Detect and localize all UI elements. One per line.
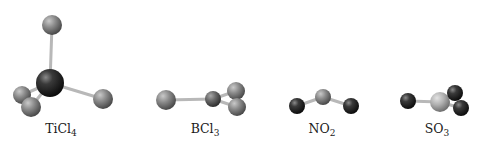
atom-cl: [21, 97, 41, 117]
formula-text: BCl: [191, 121, 214, 136]
atom-o: [453, 100, 469, 116]
formula-text: SO: [425, 121, 444, 136]
label-no2: NO2: [309, 121, 336, 136]
formula-subscript: 4: [71, 128, 77, 138]
molecule-so3: [400, 85, 469, 116]
atom-cl: [156, 90, 176, 110]
atom-o: [343, 98, 359, 114]
molecule-bcl3: [156, 82, 246, 116]
label-ticl4: TiCl4: [45, 121, 77, 136]
formula-subscript: 2: [330, 128, 336, 138]
label-bcl3: BCl3: [191, 121, 220, 136]
atom-n: [315, 89, 331, 105]
atom-cl: [227, 82, 245, 100]
molecule-no2: [289, 89, 359, 114]
molecule-ticl4: [13, 15, 113, 117]
label-so3: SO3: [425, 121, 450, 136]
atom-s: [430, 92, 450, 112]
atom-o: [447, 85, 463, 101]
atom-cl: [93, 89, 113, 109]
formula-subscript: 3: [444, 128, 450, 138]
atom-b: [205, 91, 221, 107]
atom-cl: [42, 15, 62, 35]
atom-ti: [36, 69, 64, 97]
atom-o: [400, 93, 416, 109]
formula-text: TiCl: [45, 121, 71, 136]
atom-o: [289, 98, 305, 114]
formula-text: NO: [309, 121, 330, 136]
atom-cl: [228, 98, 246, 116]
formula-subscript: 3: [214, 128, 220, 138]
